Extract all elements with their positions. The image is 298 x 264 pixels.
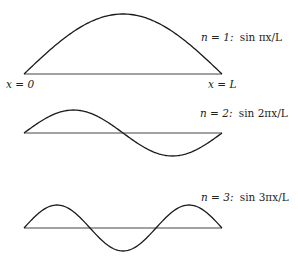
mode-2: n = 2: sin 2πx/L [24,107,288,156]
mode-3-label-fn: sin 3πx/L [240,191,289,203]
mode-2-label: n = 2: sin 2πx/L [200,107,288,119]
mode-3-label: n = 3: sin 3πx/L [201,191,289,203]
mode-3: n = 3: sin 3πx/L [24,191,289,251]
mode-1: n = 1: sin πx/L x = 0 x = L [6,14,282,90]
mode-1-label-fn: sin πx/L [240,31,282,43]
mode-2-label-fn: sin 2πx/L [239,107,288,119]
mode-1-curve [24,14,222,74]
left-endpoint-label: x = 0 [6,78,34,90]
mode-1-label: n = 1: sin πx/L [201,31,282,43]
mode-3-label-n: n = 3: [201,191,233,203]
right-endpoint-label: x = L [208,78,236,90]
standing-waves-diagram: n = 1: sin πx/L x = 0 x = L n = 2: sin 2… [0,0,298,264]
mode-2-label-n: n = 2: [200,107,232,119]
mode-1-label-n: n = 1: [201,31,233,43]
